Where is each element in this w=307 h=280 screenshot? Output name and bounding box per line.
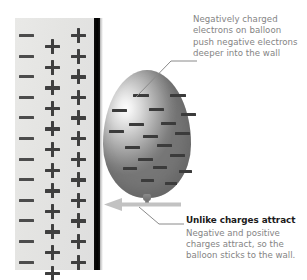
attraction-arrow — [104, 198, 181, 211]
illustration-canvas: Negatively charged electrons on balloon … — [0, 0, 307, 280]
bottom-leader-line — [139, 207, 184, 224]
top-annotation-text: Negatively charged electrons on balloon … — [193, 14, 305, 60]
top-leader-line — [136, 61, 197, 97]
caption-body: Negative and positive charges attract, s… — [186, 228, 307, 262]
caption-block: Unlike charges attract Negative and posi… — [186, 215, 307, 262]
caption-title: Unlike charges attract — [186, 215, 307, 227]
